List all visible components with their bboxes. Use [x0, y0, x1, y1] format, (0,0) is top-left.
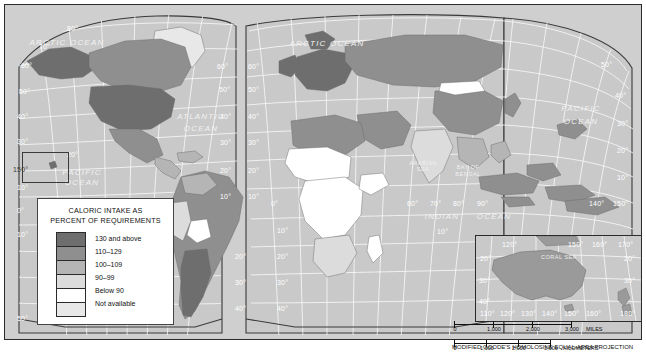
legend-label-100-109: 100–109 — [95, 258, 141, 271]
legend-label-below-90: Below 90 — [95, 284, 141, 297]
australia-inset: CORAL SEA 120° 150° 160° 170° 20° 30° 40… — [475, 235, 642, 322]
scale-bar-miles-line — [454, 324, 572, 325]
scale-bar-miles: 0 1,000 2,000 3,000 MILES — [452, 320, 642, 331]
legend-swatch-column — [56, 232, 86, 317]
legend-label-90-99: 90–99 — [95, 271, 141, 284]
ocean-label-arctic-east: ARCTIC OCEAN — [279, 39, 375, 48]
legend-swatch-130-and-above — [57, 233, 85, 247]
ocean-label-atlantic-line1: ATLANTIC — [153, 112, 249, 121]
scale-miles-tick-0: 0 — [453, 326, 456, 332]
scale-miles-tick-3000: 3,000 — [565, 326, 579, 332]
legend-swatch-110-129 — [57, 247, 85, 261]
legend-label-not-available: Not available — [95, 297, 141, 310]
legend-swatch-not-available — [57, 303, 85, 316]
caloric-intake-world-map: ARCTIC OCEAN ARCTIC OCEAN ATLANTIC OCEAN… — [0, 0, 646, 362]
ocean-label-indian-line2: OCEAN — [457, 212, 531, 221]
legend-label-column: 130 and above 110–129 100–109 90–99 Belo… — [95, 232, 141, 317]
ocean-label-pacific-east-line2: OCEAN — [533, 117, 629, 126]
legend-title: CALORIC INTAKE AS PERCENT OF REQUIREMENT… — [44, 206, 167, 226]
hawaii-inset-box — [22, 152, 69, 183]
map-legend: CALORIC INTAKE AS PERCENT OF REQUIREMENT… — [37, 198, 174, 325]
sea-label-bay-of-bengal-line2: BENGAL — [446, 171, 490, 177]
ocean-label-atlantic-line2: OCEAN — [153, 124, 249, 133]
ocean-label-pacific-east-line1: PACIFIC — [533, 104, 629, 113]
legend-label-110-129: 110–129 — [95, 245, 141, 258]
australia-inset-graphic — [476, 236, 642, 321]
legend-swatch-below-90 — [57, 289, 85, 303]
sea-label-coral-sea: CORAL SEA — [522, 254, 596, 260]
ocean-label-arctic-west: ARCTIC OCEAN — [19, 38, 115, 47]
legend-title-line1: CALORIC INTAKE AS — [44, 206, 167, 216]
scale-miles-tick-1000: 1,000 — [487, 326, 501, 332]
sea-label-bay-of-bengal-line1: BAY OF — [446, 164, 490, 170]
legend-swatch-100-109 — [57, 261, 85, 275]
scale-miles-tick-2000: 2,000 — [526, 326, 540, 332]
projection-note: MODIFIED GOODE'S HOMOLOSINE EQUAL-AREA P… — [452, 344, 633, 350]
legend-label-130-and-above: 130 and above — [95, 232, 141, 245]
sea-label-arabian-line2: SEA — [401, 166, 445, 172]
legend-swatch-90-99 — [57, 275, 85, 289]
scale-miles-unit: MILES — [586, 326, 603, 332]
map-frame: ARCTIC OCEAN ARCTIC OCEAN ATLANTIC OCEAN… — [4, 4, 642, 340]
legend-title-line2: PERCENT OF REQUIREMENTS — [44, 216, 167, 226]
